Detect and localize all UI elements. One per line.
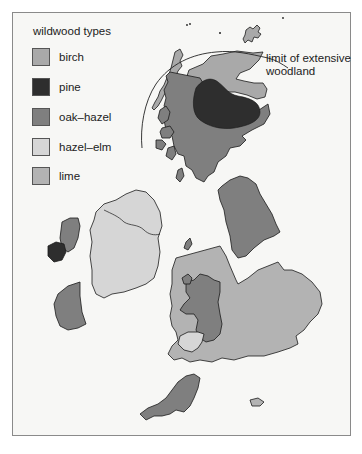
legend-label-oak-hazel: oak–hazel <box>59 111 111 123</box>
woodland-limit-annotation: limit of extensive woodland <box>266 52 351 78</box>
legend-label-hazel-elm: hazel–elm <box>59 141 111 153</box>
isle-of-wight <box>250 398 264 406</box>
legend-item-birch: birch <box>32 48 84 66</box>
ireland-west-pine <box>48 242 66 262</box>
isle-of-man <box>184 238 192 250</box>
annotation-line-2: woodland <box>266 65 351 78</box>
birch-swatch <box>32 48 50 66</box>
legend-label-lime: lime <box>59 170 80 182</box>
hazel-elm-swatch <box>32 138 50 156</box>
oak-hazel-swatch <box>32 108 50 126</box>
legend-label-pine: pine <box>59 81 81 93</box>
legend-item-pine: pine <box>32 78 81 96</box>
pine-swatch <box>32 78 50 96</box>
legend-item-lime: lime <box>32 167 80 185</box>
legend-item-oak-hazel: oak–hazel <box>32 108 111 126</box>
legend-item-hazel-elm: hazel–elm <box>32 138 111 156</box>
orkney-islands <box>243 25 261 43</box>
legend-title: wildwood types <box>33 25 111 37</box>
northern-isles <box>186 17 284 43</box>
ireland-west-oak-hazel <box>54 218 86 330</box>
northern-england-oak-hazel <box>218 176 280 258</box>
legend-label-birch: birch <box>59 51 84 63</box>
annotation-line-1: limit of extensive <box>266 52 351 65</box>
lime-swatch <box>32 167 50 185</box>
southwest-oak-hazel <box>140 374 200 420</box>
ireland-hazel-elm <box>90 190 162 298</box>
